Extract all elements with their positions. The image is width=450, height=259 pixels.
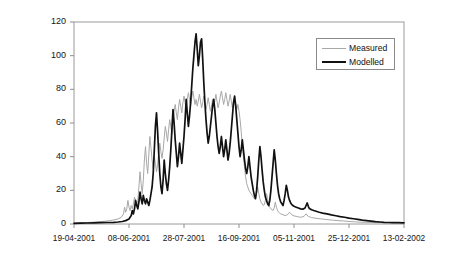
chart-legend: Measured Modelled xyxy=(316,38,395,70)
y-tick-label: 60 xyxy=(40,117,66,128)
y-tick-label: 80 xyxy=(40,83,66,94)
legend-swatch-modelled-icon xyxy=(322,61,346,63)
y-tick-label: 100 xyxy=(40,50,66,61)
legend-item-measured: Measured xyxy=(317,41,396,55)
legend-swatch-measured-icon xyxy=(322,48,346,49)
x-tick-label: 13-02-2002 xyxy=(369,233,439,244)
y-tick-label: 20 xyxy=(40,184,66,195)
y-tick-label: 40 xyxy=(40,151,66,162)
legend-label-modelled: Modelled xyxy=(349,56,384,68)
discharge-time-series-chart: Discharge m3/s 020406080100120 19-04-200… xyxy=(0,0,450,259)
legend-item-modelled: Modelled xyxy=(317,55,396,69)
legend-label-measured: Measured xyxy=(349,42,387,54)
y-tick-label: 120 xyxy=(40,16,66,27)
y-tick-label: 0 xyxy=(40,218,66,229)
